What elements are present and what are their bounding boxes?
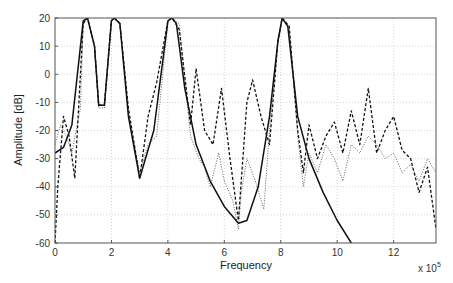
series-solid-line (55, 18, 351, 243)
x-tick-label: 6 (222, 247, 228, 258)
x-tick-label: 8 (278, 247, 284, 258)
x-axis-label: Frequency (220, 259, 272, 271)
y-tick-label: 0 (44, 69, 50, 80)
y-tick-label: 20 (39, 13, 51, 24)
x-tick-label: 0 (52, 247, 58, 258)
x-axis-multiplier: x 105 (418, 261, 441, 274)
y-tick-label: -10 (36, 97, 51, 108)
y-tick-label: -20 (36, 125, 51, 136)
y-tick-label: -60 (36, 238, 51, 249)
y-tick-label: -50 (36, 209, 51, 220)
y-tick-label: -30 (36, 153, 51, 164)
x-tick-label: 2 (109, 247, 115, 258)
y-axis-label: Amplitude [dB] (12, 94, 24, 166)
x-tick-label: 10 (332, 247, 344, 258)
y-tick-label: -40 (36, 181, 51, 192)
x-tick-label: 4 (165, 247, 171, 258)
y-tick-label: 10 (39, 41, 51, 52)
x-tick-label: 12 (388, 247, 400, 258)
x-multiplier-exponent: 5 (437, 261, 441, 268)
line-chart: 20100-10-20-30-40-50-60 024681012 Freque… (0, 0, 453, 283)
x-multiplier-base: x 10 (418, 263, 437, 274)
grid-lines (55, 18, 436, 243)
